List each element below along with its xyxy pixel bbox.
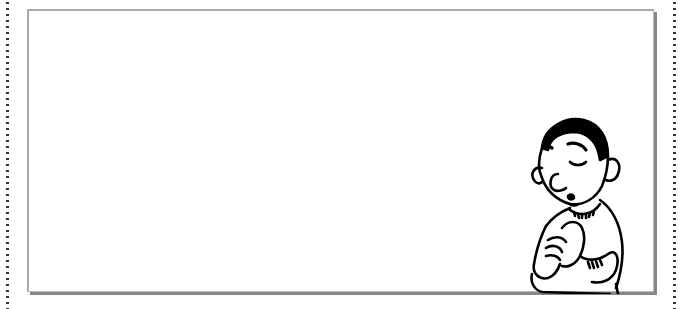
dotted-border-left (6, 0, 9, 309)
dotted-border-right (673, 0, 676, 309)
praying-boy-illustration (512, 108, 630, 294)
